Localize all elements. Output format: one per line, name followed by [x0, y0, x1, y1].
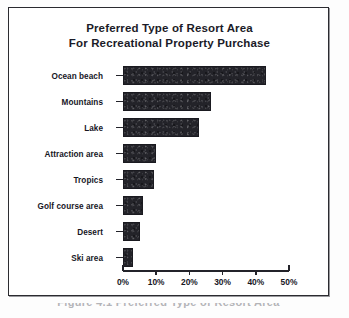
category-tick [116, 127, 123, 129]
bar-row: Golf course area [9, 196, 330, 215]
bottom-caption-text: Figure 4.1 Preferred Type of Resort Area [8, 303, 329, 308]
category-tick [116, 153, 123, 155]
bar-row: Mountains [9, 92, 330, 111]
bar [123, 248, 133, 267]
x-axis-tick [189, 270, 191, 275]
bar [123, 118, 199, 137]
category-tick [116, 75, 123, 77]
x-axis-tick [122, 265, 124, 271]
bar [123, 170, 154, 189]
category-tick [116, 101, 123, 103]
x-axis-tick [255, 270, 257, 275]
bar-row: Desert [9, 222, 330, 241]
bar-row: Ski area [9, 248, 330, 267]
category-label: Ski area [71, 253, 103, 262]
category-tick [116, 179, 123, 181]
x-axis-tick-label: 10% [148, 277, 165, 287]
chart-frame: Preferred Type of Resort Area For Recrea… [8, 7, 329, 296]
x-axis-tick-label: 20% [181, 277, 198, 287]
x-axis-tick-label: 0% [117, 277, 129, 287]
category-label: Tropics [74, 175, 103, 184]
x-axis-tick [288, 265, 290, 271]
bar [123, 66, 266, 85]
bottom-caption: Figure 4.1 Preferred Type of Resort Area [8, 303, 329, 318]
category-tick [116, 231, 123, 233]
bar-row: Lake [9, 118, 330, 137]
x-axis-tick [222, 270, 224, 275]
category-label: Mountains [62, 97, 103, 106]
category-label: Desert [77, 227, 103, 236]
category-tick [116, 205, 123, 207]
chart-figure: Preferred Type of Resort Area For Recrea… [0, 0, 349, 318]
category-label: Attraction area [44, 149, 103, 158]
x-axis-tick-label: 40% [247, 277, 264, 287]
bar-row: Attraction area [9, 144, 330, 163]
bar [123, 92, 211, 111]
bar [123, 222, 140, 241]
x-axis-tick-label: 50% [281, 277, 298, 287]
x-axis-tick-label: 30% [214, 277, 231, 287]
category-label: Golf course area [38, 201, 103, 210]
category-label: Lake [84, 123, 103, 132]
category-tick [116, 257, 123, 259]
bar [123, 196, 143, 215]
x-axis-line [123, 270, 289, 272]
bar-row: Tropics [9, 170, 330, 189]
bar [123, 144, 156, 163]
bar-row: Ocean beach [9, 66, 330, 85]
x-axis-tick [155, 270, 157, 275]
plot-area: Ocean beachMountainsLakeAttraction areaT… [9, 8, 330, 297]
category-label: Ocean beach [51, 71, 103, 80]
